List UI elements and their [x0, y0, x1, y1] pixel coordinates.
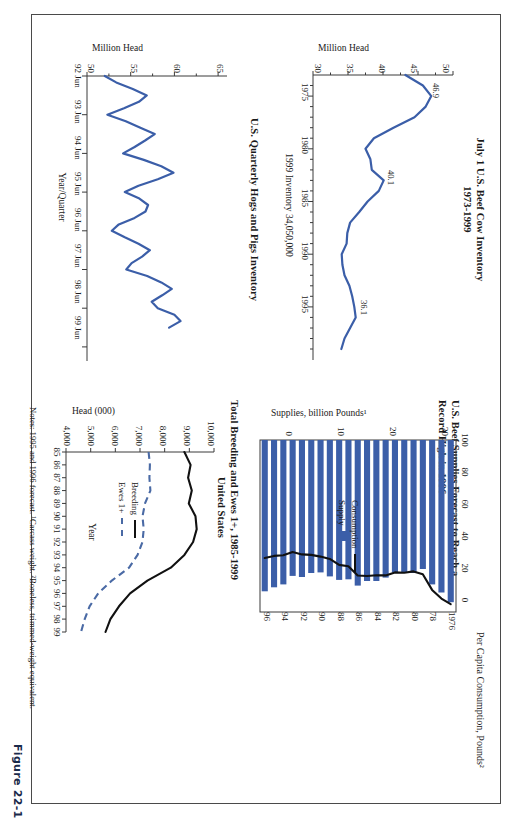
sheep-x-axis-title: Year [87, 512, 97, 552]
figure-notes: Notes: 1995 and 1996 forecast. ¹Carcass … [28, 407, 38, 709]
beef-cow-ytick-40: 40 [377, 57, 387, 73]
beef-cow-title-line2: 1973-1999 [462, 186, 473, 232]
legend-label-breeding: Breeding [130, 482, 140, 515]
hogs-xtick-97jun: 97 Jun [73, 238, 83, 274]
beef-supply-top-tick-40: 40 [460, 526, 470, 546]
beef-supply-ytick-20: 20 [388, 418, 398, 436]
beef-supply-ytick-0: 0 [284, 418, 294, 436]
beef-cow-xtick-1975: 1975 [300, 77, 310, 107]
legend-item-breeding: Breeding [130, 482, 140, 538]
beef-cow-xtick-1990: 1990 [300, 236, 310, 266]
beef-cow-subnote: 1999 Inventory 34,050,000 [284, 75, 294, 335]
sheep-title: Total Breeding and Ewes 1+, 1985-1999 Un… [214, 400, 240, 615]
rotated-figure-canvas: July 1 U.S. Beef Cow Inventory 1973-1999… [0, 0, 511, 819]
hogs-xtick-99jun: 99 Jun [73, 310, 83, 346]
sheep-ytick-6000: 6,000 [110, 412, 120, 446]
beef-cow-ytick-45: 45 [409, 57, 419, 73]
figure-plate-border: July 1 U.S. Beef Cow Inventory 1973-1999… [31, 14, 501, 804]
beef-supply-ytick-30: 30 [440, 418, 450, 436]
hogs-xtick-95jun: 95 Jun [73, 166, 83, 202]
box-swatch-icon [337, 531, 347, 541]
sheep-ytick-7000: 7,000 [134, 412, 144, 446]
hogs-series-line [105, 76, 181, 328]
beef-supply-cat-92: 92 [299, 612, 309, 640]
beef-cow-series-line [341, 75, 431, 349]
beef-supply-cat-82: 82 [391, 612, 401, 640]
sheep-ytick-9000: 9,000 [182, 412, 192, 446]
sheep-title-line1: Total Breeding and Ewes 1+, 1985-1999 [229, 400, 240, 580]
beef-supply-cat-96: 96 [262, 612, 272, 640]
hogs-ytick-50: 50 [86, 57, 96, 73]
panel-breeding-and-ewes: Total Breeding and Ewes 1+, 1985-1999 Un… [43, 400, 248, 800]
beef-cow-xtick-1985: 1985 [300, 183, 310, 213]
legend-item-consumption: Consumption [350, 500, 360, 572]
beef-cow-annotation-469: 46.9 [431, 83, 441, 98]
hogs-xtick-96jun: 96 Jun [73, 202, 83, 238]
beef-supply-legend: Consumption Supply [334, 500, 360, 572]
legend-label-ewes: Ewes 1+ [117, 482, 127, 513]
beef-supply-top-tick-0: 0 [460, 590, 470, 610]
beef-supply-ytick-10: 10 [336, 418, 346, 436]
hogs-x-axis-title: Year/Quarter [57, 137, 67, 257]
hogs-ytick-65: 65 [215, 57, 225, 73]
beef-cow-title-line1: July 1 U.S. Beef Cow Inventory [475, 138, 486, 282]
beef-supply-top-tick-80: 80 [460, 462, 470, 482]
beef-supply-cat-80: 80 [410, 612, 420, 640]
hogs-ytick-60: 60 [172, 57, 182, 73]
beef-supply-cat-1976: 1976 [447, 612, 457, 640]
beef-supply-cat-90: 90 [317, 612, 327, 640]
dashed-line-swatch-icon [121, 518, 123, 536]
figure-page: July 1 U.S. Beef Cow Inventory 1973-1999… [0, 0, 511, 819]
beef-cow-xtick-1995: 1995 [300, 289, 310, 319]
beef-supply-top-tick-100: 100 [460, 430, 470, 450]
beef-supply-cat-88: 88 [336, 612, 346, 640]
beef-cow-ytick-35: 35 [345, 57, 355, 73]
sheep-ytick-5000: 5,000 [86, 412, 96, 446]
line-swatch-icon [354, 554, 356, 572]
sheep-legend: Breeding Ewes 1+ [114, 482, 140, 538]
panel-hogs-and-pigs-inventory: U.S. Quarterly Hogs and Pigs Inventory M… [45, 37, 260, 382]
beef-cow-xtick-1980: 1980 [300, 130, 310, 160]
panel-beef-supplies-forecast: U.S. Beef Supplies Forecast to Reach a R… [248, 400, 486, 800]
beef-cow-title: July 1 U.S. Beef Cow Inventory 1973-1999 [460, 37, 486, 382]
beef-supply-cat-84: 84 [373, 612, 383, 640]
beef-cow-annotation-401: 40.1 [386, 170, 396, 185]
beef-supply-cat-86: 86 [354, 612, 364, 640]
hogs-plot [87, 76, 227, 361]
hogs-ytick-55: 55 [129, 57, 139, 73]
sheep-ytick-10000: 10,000 [206, 412, 216, 446]
beef-cow-y-axis-title: Million Head [318, 43, 369, 53]
beef-supply-top-tick-20: 20 [460, 558, 470, 578]
legend-item-supply: Supply [337, 500, 347, 572]
beef-cow-annotation-361: 36.1 [359, 300, 369, 315]
legend-item-ewes: Ewes 1+ [117, 482, 127, 538]
sheep-xtick-99: 99 [52, 624, 62, 640]
hogs-xtick-98jun: 98 Jun [73, 274, 83, 310]
beef-supply-left-axis-title: Supplies, billion Pounds¹ [271, 408, 367, 418]
beef-cow-plot [313, 75, 453, 360]
sheep-breeding-line [106, 452, 197, 632]
beef-supply-cat-78: 78 [428, 612, 438, 640]
figure-number: Figure 22-1 [11, 744, 24, 819]
sheep-title-line2: United States [214, 400, 227, 615]
beef-supply-top-axis-title: Per Capita Consumption, Pounds² [475, 632, 486, 768]
beef-supply-top-tick-60: 60 [460, 494, 470, 514]
beef-supply-cat-94: 94 [280, 612, 290, 640]
hogs-title-line1: U.S. Quarterly Hogs and Pigs Inventory [249, 118, 260, 301]
beef-cow-ytick-50: 50 [441, 57, 451, 73]
hogs-xtick-93jun: 93 Jun [73, 94, 83, 130]
panel-beef-cow-inventory: July 1 U.S. Beef Cow Inventory 1973-1999… [271, 37, 486, 382]
hogs-xtick-92jun: 92 Jun [73, 58, 83, 94]
hogs-xtick-94jun: 94 Jun [73, 130, 83, 166]
legend-label-supply: Supply [337, 500, 347, 526]
legend-label-consumption: Consumption [350, 500, 360, 549]
solid-line-swatch-icon [134, 520, 136, 538]
hogs-title: U.S. Quarterly Hogs and Pigs Inventory [247, 37, 260, 382]
hogs-y-axis-title: Million Head [92, 43, 143, 53]
sheep-ytick-4000: 4,000 [62, 412, 72, 446]
sheep-ytick-8000: 8,000 [158, 412, 168, 446]
beef-cow-ytick-30: 30 [313, 57, 323, 73]
